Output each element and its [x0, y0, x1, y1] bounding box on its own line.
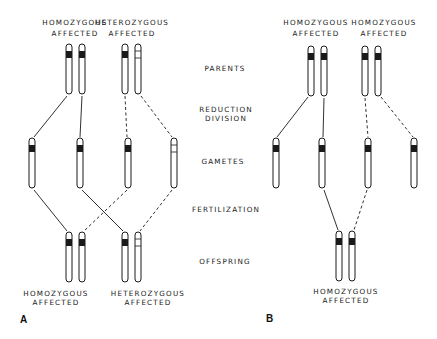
segregation-line-solid	[277, 97, 308, 137]
panel-a-offspring-left-label-1: HOMOZYGOUS	[23, 289, 88, 298]
chromosome-affected	[66, 44, 72, 94]
chromosome-affected	[308, 46, 314, 96]
panel-b-letter: B	[266, 313, 273, 324]
chromosome-normal	[135, 44, 141, 94]
chromosome-affected	[375, 46, 381, 96]
panel-a: HOMOZYGOUS AFFECTED HETEROZYGOUS AFFECTE…	[20, 18, 185, 325]
gamete-affected	[125, 138, 131, 188]
offspring-chromosome-affected	[66, 232, 72, 282]
stage-gametes: GAMETES	[201, 157, 244, 166]
gamete-affected	[77, 138, 83, 188]
panel-b-parent-right-label-1: HOMOZYGOUS	[351, 18, 416, 27]
panel-a-parent-right-label-2: AFFECTED	[109, 29, 156, 38]
stage-fertilization: FERTILIZATION	[192, 205, 260, 214]
panel-b-parent-right-label-2: AFFECTED	[361, 29, 408, 38]
fertilization-line-solid	[82, 190, 123, 231]
gamete-affected	[411, 138, 417, 188]
gamete-affected	[29, 138, 35, 188]
panel-a-parent-right-label-1: HETEROZYGOUS	[95, 18, 169, 27]
segregation-line-solid	[34, 96, 67, 137]
chromosome-affected	[321, 46, 327, 96]
panel-b-parent-left-label-2: AFFECTED	[293, 29, 340, 38]
segregation-line-dashed	[125, 96, 127, 137]
stage-reduction: REDUCTION	[199, 105, 253, 114]
panel-b: HOMOZYGOUS AFFECTED HOMOZYGOUS AFFECTED …	[266, 18, 417, 324]
panel-b-parent-left-label-1: HOMOZYGOUS	[283, 18, 348, 27]
segregation-line-dashed	[141, 96, 172, 137]
segregation-line-dashed	[365, 98, 368, 137]
panel-b-offspring-label-1: HOMOZYGOUS	[313, 287, 378, 296]
fertilization-line-dashed	[354, 190, 367, 230]
gamete-affected	[319, 138, 325, 188]
offspring-chromosome-normal	[135, 232, 141, 282]
gamete-normal	[171, 138, 177, 188]
offspring-chromosome-affected	[349, 231, 355, 281]
fertilization-line-solid	[324, 190, 338, 230]
stage-labels: PARENTS REDUCTION DIVISION GAMETES FERTI…	[192, 64, 260, 266]
fertilization-line-dashed	[84, 190, 127, 231]
panel-a-parent-left-label-2: AFFECTED	[52, 29, 99, 38]
panel-b-offspring-label-2: AFFECTED	[323, 296, 370, 305]
gamete-affected	[365, 138, 371, 188]
segregation-line-solid	[323, 98, 324, 137]
panel-a-offspring-left-label-2: AFFECTED	[33, 298, 80, 307]
panel-a-offspring-right-label-2: AFFECTED	[125, 298, 172, 307]
stage-division: DIVISION	[205, 114, 247, 123]
stage-offspring: OFFSPRING	[199, 257, 251, 266]
offspring-chromosome-affected	[79, 232, 85, 282]
chromosome-affected	[362, 46, 368, 96]
chromosome-affected	[122, 44, 128, 94]
offspring-chromosome-affected	[122, 232, 128, 282]
fertilization-line-solid	[34, 190, 67, 231]
gamete-affected	[273, 138, 279, 188]
fertilization-line-dashed	[140, 190, 172, 231]
segregation-line-dashed	[381, 97, 413, 137]
offspring-chromosome-affected	[336, 231, 342, 281]
chromosome-affected	[79, 44, 85, 94]
panel-a-letter: A	[20, 314, 27, 325]
inheritance-diagram: HOMOZYGOUS AFFECTED HETEROZYGOUS AFFECTE…	[0, 0, 437, 339]
segregation-line-solid	[80, 96, 82, 137]
stage-parents: PARENTS	[204, 64, 245, 73]
panel-a-offspring-right-label-1: HETEROZYGOUS	[111, 289, 185, 298]
